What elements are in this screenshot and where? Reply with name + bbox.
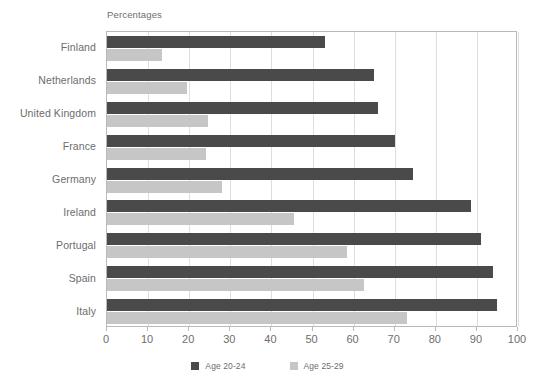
bar-italy-series-0 xyxy=(107,299,497,311)
bar-netherlands-series-0 xyxy=(107,69,374,81)
y-axis-label-united-kingdom: United Kingdom xyxy=(20,107,96,119)
bar-chart: Percentages FinlandNetherlandsUnited Kin… xyxy=(0,0,535,387)
bar-portugal-series-0 xyxy=(107,233,481,245)
bars-layer xyxy=(107,32,516,326)
bar-france-series-0 xyxy=(107,135,395,147)
legend-swatch-icon xyxy=(290,362,298,370)
bar-portugal-series-1 xyxy=(107,246,347,258)
x-tick-mark xyxy=(394,327,395,331)
x-tick-mark xyxy=(188,327,189,331)
y-axis-label-portugal: Portugal xyxy=(56,239,96,251)
y-axis-label-italy: Italy xyxy=(76,305,96,317)
bar-netherlands-series-1 xyxy=(107,82,187,94)
bar-finland-series-0 xyxy=(107,36,325,48)
y-axis-label-germany: Germany xyxy=(52,173,96,185)
x-tick-mark xyxy=(312,327,313,331)
chart-title: Percentages xyxy=(107,9,162,20)
x-tick-label-20: 20 xyxy=(182,333,194,345)
legend-item-series-1[interactable]: Age 25-29 xyxy=(290,361,344,371)
bar-spain-series-0 xyxy=(107,266,493,278)
x-tick-mark xyxy=(229,327,230,331)
x-tick-label-70: 70 xyxy=(388,333,400,345)
x-tick-label-90: 90 xyxy=(470,333,482,345)
y-axis-label-finland: Finland xyxy=(61,41,96,53)
y-axis-label-france: France xyxy=(63,140,96,152)
plot-area xyxy=(106,31,517,327)
y-axis-label-netherlands: Netherlands xyxy=(38,74,96,86)
x-tick-label-10: 10 xyxy=(141,333,153,345)
x-tick-label-80: 80 xyxy=(429,333,441,345)
x-tick-label-100: 100 xyxy=(508,333,526,345)
bar-germany-series-1 xyxy=(107,181,222,193)
x-axis-ticks: 0102030405060708090100 xyxy=(106,327,517,349)
y-axis-label-ireland: Ireland xyxy=(63,206,96,218)
bar-united-kingdom-series-1 xyxy=(107,115,208,127)
x-tick-label-30: 30 xyxy=(223,333,235,345)
x-tick-mark xyxy=(517,327,518,331)
chart-legend: Age 20-24Age 25-29 xyxy=(0,361,535,371)
legend-label: Age 25-29 xyxy=(304,361,344,371)
bar-ireland-series-1 xyxy=(107,213,294,225)
x-tick-mark xyxy=(435,327,436,331)
x-tick-label-60: 60 xyxy=(346,333,358,345)
bar-finland-series-1 xyxy=(107,49,162,61)
x-tick-mark xyxy=(106,327,107,331)
bar-united-kingdom-series-0 xyxy=(107,102,378,114)
gridline xyxy=(518,32,519,326)
x-tick-mark xyxy=(476,327,477,331)
y-axis-label-spain: Spain xyxy=(69,272,96,284)
bar-germany-series-0 xyxy=(107,168,413,180)
x-tick-label-50: 50 xyxy=(305,333,317,345)
bar-italy-series-1 xyxy=(107,312,407,324)
legend-item-series-0[interactable]: Age 20-24 xyxy=(191,361,245,371)
x-tick-label-40: 40 xyxy=(264,333,276,345)
x-tick-mark xyxy=(270,327,271,331)
legend-swatch-icon xyxy=(191,362,199,370)
x-tick-mark xyxy=(147,327,148,331)
x-tick-label-0: 0 xyxy=(103,333,109,345)
bar-spain-series-1 xyxy=(107,279,364,291)
x-tick-mark xyxy=(353,327,354,331)
y-axis-category-labels: FinlandNetherlandsUnited KingdomFranceGe… xyxy=(0,31,100,327)
bar-ireland-series-0 xyxy=(107,200,471,212)
bar-france-series-1 xyxy=(107,148,206,160)
legend-label: Age 20-24 xyxy=(205,361,245,371)
